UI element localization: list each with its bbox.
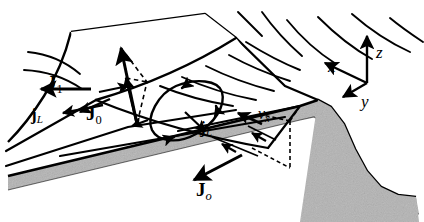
bottom-J0-arrow: [194, 155, 242, 180]
axis-label-z: z: [376, 44, 383, 61]
axis-label-x: x: [328, 58, 336, 75]
label-J0-bottom: Jo: [196, 180, 212, 199]
label-jL-left: jL: [31, 106, 43, 123]
label-J0-left: J0: [86, 104, 102, 123]
axis-label-y: y: [361, 93, 369, 110]
label-jL-mid: jL: [200, 119, 212, 136]
label-J1: J1: [47, 73, 63, 92]
label-vx: vx: [258, 106, 270, 122]
trough-shadow: [300, 100, 419, 222]
current-density-diagram: [0, 0, 424, 222]
